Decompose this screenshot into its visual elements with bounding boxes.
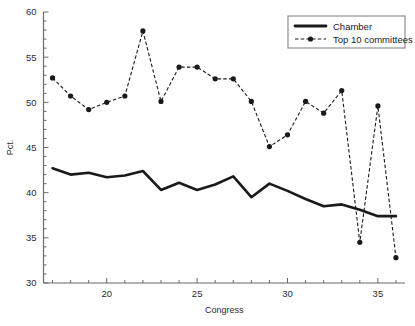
- data-point-top-10-committees: [375, 103, 380, 108]
- data-point-top-10-committees: [339, 88, 344, 93]
- data-point-top-10-committees: [267, 144, 272, 149]
- legend-label-top-10-committees: Top 10 committees: [333, 34, 413, 45]
- y-axis-tick-label: 35: [26, 232, 37, 243]
- data-point-top-10-committees: [303, 99, 308, 104]
- data-point-top-10-committees: [176, 65, 181, 70]
- data-point-top-10-committees: [285, 132, 290, 137]
- data-point-top-10-committees: [68, 93, 73, 98]
- y-axis-tick-label: 60: [26, 6, 37, 17]
- data-point-top-10-committees: [393, 255, 398, 260]
- series-line-top-10-committees: [53, 31, 396, 258]
- data-point-top-10-committees: [357, 240, 362, 245]
- y-axis-title: Pct.: [5, 140, 15, 156]
- y-axis-tick-label: 55: [26, 52, 37, 63]
- data-point-top-10-committees: [86, 107, 91, 112]
- legend-label-chamber: Chamber: [333, 21, 372, 32]
- series-line-chamber: [53, 168, 396, 216]
- x-axis-tick-label: 35: [373, 288, 384, 299]
- legend-marker-top-10-committees: [308, 36, 313, 41]
- data-point-top-10-committees: [104, 100, 109, 105]
- data-point-top-10-committees: [321, 111, 326, 116]
- data-point-top-10-committees: [158, 99, 163, 104]
- x-axis-tick-label: 25: [192, 288, 203, 299]
- y-axis-tick-label: 50: [26, 97, 37, 108]
- data-point-top-10-committees: [140, 28, 145, 33]
- line-chart: 3035404550556020253035CongressPct.Chambe…: [0, 0, 415, 326]
- x-axis-tick-label: 20: [101, 288, 112, 299]
- data-point-top-10-committees: [122, 93, 127, 98]
- y-axis-tick-label: 30: [26, 277, 37, 288]
- x-axis-tick-label: 30: [282, 288, 293, 299]
- chart-canvas: 3035404550556020253035CongressPct.Chambe…: [0, 0, 415, 326]
- data-point-top-10-committees: [50, 75, 55, 80]
- data-point-top-10-committees: [249, 99, 254, 104]
- data-point-top-10-committees: [231, 76, 236, 81]
- data-point-top-10-committees: [195, 65, 200, 70]
- y-axis-tick-label: 40: [26, 187, 37, 198]
- y-axis-tick-label: 45: [26, 142, 37, 153]
- data-point-top-10-committees: [213, 76, 218, 81]
- x-axis-title: Congress: [205, 305, 244, 315]
